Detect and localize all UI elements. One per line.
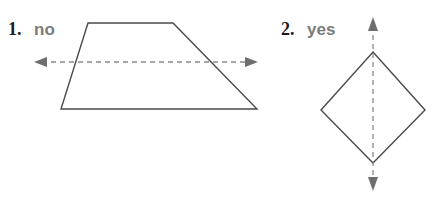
arrowhead-down-icon (368, 177, 378, 191)
figures-svg (0, 0, 436, 202)
arrowhead-left-icon (34, 57, 47, 67)
trapezoid-shape (61, 23, 257, 109)
arrowhead-right-icon (245, 57, 258, 67)
arrowhead-up-icon (368, 17, 378, 31)
worksheet-canvas: 1. no 2. yes (0, 0, 436, 202)
